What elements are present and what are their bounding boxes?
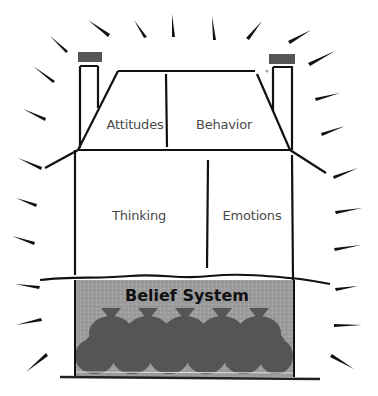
ray-icon bbox=[33, 66, 55, 83]
room-label-behavior: Behavior bbox=[196, 117, 252, 132]
ray-icon bbox=[16, 198, 37, 207]
ray-icon bbox=[212, 16, 216, 40]
room-label-thinking: Thinking bbox=[112, 208, 166, 223]
ray-icon bbox=[333, 168, 358, 179]
room-label-emotions: Emotions bbox=[223, 208, 282, 223]
ray-icon bbox=[334, 324, 362, 327]
ray-icon bbox=[288, 30, 311, 44]
ray-icon bbox=[134, 20, 147, 38]
ray-icon bbox=[50, 36, 68, 53]
ray-icon bbox=[172, 14, 175, 37]
ray-icon bbox=[15, 284, 40, 289]
left-chimney bbox=[78, 52, 102, 148]
ray-icon bbox=[334, 245, 361, 251]
ray-icon bbox=[18, 158, 42, 170]
ray-icon bbox=[308, 51, 335, 66]
ray-icon bbox=[23, 109, 46, 121]
house-diagram bbox=[0, 0, 378, 396]
ray-icon bbox=[16, 318, 42, 325]
ray-icon bbox=[330, 354, 354, 369]
ray-icon bbox=[315, 93, 340, 101]
room-label-attitudes: Attitudes bbox=[106, 117, 163, 132]
ray-icon bbox=[246, 21, 262, 40]
ray-icon bbox=[321, 126, 345, 136]
basement-label-belief-system: Belief System bbox=[125, 286, 249, 305]
roof-section bbox=[45, 71, 326, 173]
ray-icon bbox=[88, 20, 110, 37]
ray-icon bbox=[26, 353, 48, 372]
ray-icon bbox=[12, 236, 35, 245]
ray-icon bbox=[335, 286, 358, 291]
ray-icon bbox=[335, 208, 362, 214]
